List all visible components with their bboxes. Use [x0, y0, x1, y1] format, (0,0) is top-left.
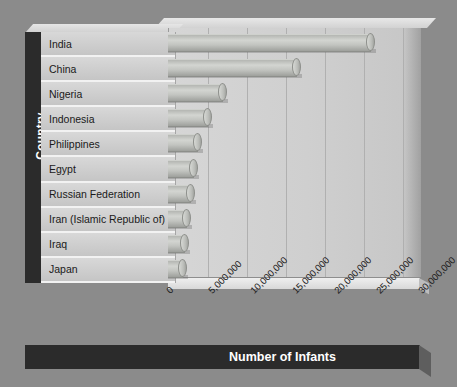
category-label: China	[41, 63, 76, 75]
category-row: Indonesia	[41, 107, 175, 132]
bar	[168, 34, 371, 50]
x-axis-title-band: Number of Infants	[25, 345, 420, 369]
bar-series	[168, 28, 420, 277]
category-row: Japan	[41, 258, 175, 283]
category-label: Iran (Islamic Republic of)	[41, 213, 165, 225]
bar-end-cap	[178, 259, 187, 277]
category-row: China	[41, 57, 175, 82]
category-label: Russian Federation	[41, 188, 140, 200]
bar	[168, 210, 187, 226]
category-row: Nigeria	[41, 82, 175, 107]
category-label: India	[41, 38, 72, 50]
category-row: Egypt	[41, 157, 175, 182]
category-label: Egypt	[41, 163, 76, 175]
category-label: Nigeria	[41, 88, 82, 100]
chart-top-slab	[155, 18, 436, 28]
category-row: Iran (Islamic Republic of)	[41, 208, 175, 233]
x-axis-title: Number of Infants	[25, 345, 420, 369]
x-axis-tick-label: 30,000,000	[416, 254, 457, 295]
bar	[168, 109, 208, 125]
category-row: Russian Federation	[41, 183, 175, 208]
bar	[168, 134, 198, 150]
category-row: India	[41, 32, 175, 57]
bar	[168, 84, 223, 100]
bar	[168, 185, 191, 201]
bar	[168, 235, 185, 251]
bar	[168, 160, 194, 176]
bar-body	[168, 34, 371, 52]
bar-body	[168, 59, 297, 77]
x-axis-tick-labels: 05,000,00010,000,00015,000,00020,000,000…	[0, 288, 439, 348]
bar	[168, 59, 297, 75]
category-label: Iraq	[41, 238, 67, 250]
category-label: Philippines	[41, 138, 100, 150]
category-row: Iraq	[41, 233, 175, 258]
category-axis-band: Country	[25, 32, 41, 283]
bar	[168, 260, 183, 276]
category-label-list: IndiaChinaNigeriaIndonesiaPhilippinesEgy…	[41, 32, 175, 283]
bar-end-cap	[186, 184, 195, 202]
category-label: Japan	[41, 263, 78, 275]
bar-end-cap	[189, 159, 198, 177]
category-row: Philippines	[41, 132, 175, 157]
bar-end-cap	[180, 234, 189, 252]
bar-body	[168, 84, 223, 102]
bar-body	[168, 109, 208, 127]
category-label: Indonesia	[41, 113, 95, 125]
